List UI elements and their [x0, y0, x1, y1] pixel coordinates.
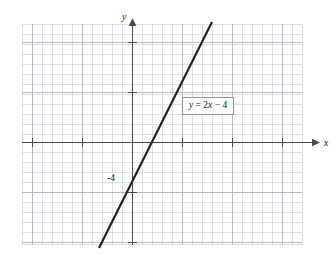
y-axis	[128, 18, 137, 245]
y-axis-label: y	[121, 12, 127, 22]
x-axis-arrow-icon	[312, 139, 320, 147]
equation-label: y = 2x − 4	[182, 97, 234, 115]
y-tick-label-minus-four: -4	[107, 173, 115, 183]
coordinate-plane-svg: y x -4	[0, 0, 336, 267]
x-axis	[22, 138, 320, 147]
line-series-y-equals-2x-minus-4	[99, 22, 212, 248]
graph-figure: y x -4 y = 2x − 4	[0, 0, 336, 267]
equation-equals: = 2	[193, 100, 208, 110]
equation-rhs: − 4	[212, 100, 227, 110]
grid-minor-horizontal-lines	[22, 25, 302, 245]
x-axis-label: x	[323, 138, 329, 148]
y-axis-arrow-icon	[129, 18, 137, 26]
